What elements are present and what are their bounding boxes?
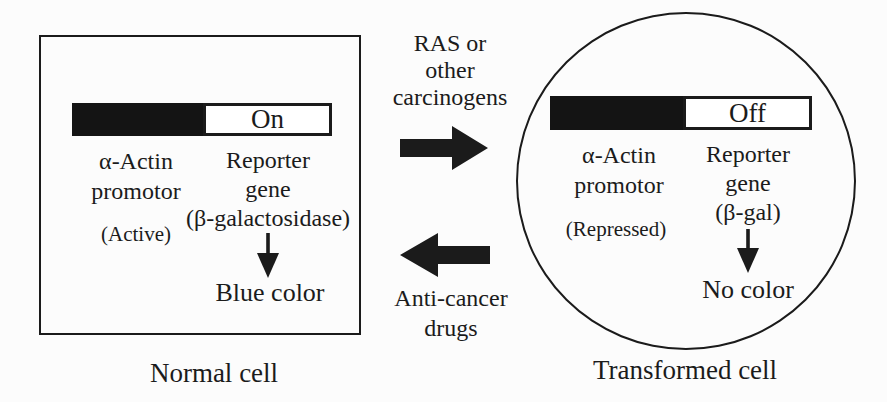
anti-cancer-drugs-label: Anti-cancer drugs xyxy=(394,283,507,343)
reporter-output-arrow-icon xyxy=(733,229,763,274)
anticancer-arrow-icon xyxy=(400,233,490,277)
reporter-gene-label: Reporter gene (β-gal) xyxy=(706,140,790,227)
reporter-gene-label: Reporter gene (β-galactosidase) xyxy=(186,146,350,233)
reporter-bar-segment: On xyxy=(203,103,332,136)
alpha-actin-promotor-label: α-Actin promotor xyxy=(574,140,663,200)
promoter-bar-segment xyxy=(72,103,203,136)
carcinogens-arrow-icon xyxy=(400,126,488,170)
reporter-bar-segment: Off xyxy=(683,96,812,130)
alpha-actin-promotor-label: α-Actin promotor xyxy=(91,146,180,206)
bar-state-label: Off xyxy=(729,98,766,129)
no-color-result-label: No color xyxy=(702,276,794,304)
reporter-output-arrow-icon xyxy=(253,233,283,279)
normal-cell-label: Normal cell xyxy=(150,359,278,388)
transformed-cell-label: Transformed cell xyxy=(593,356,777,385)
repressed-status-label: (Repressed) xyxy=(566,217,666,241)
transformed-cell-gene-bar: Off xyxy=(550,96,812,130)
promoter-bar-segment xyxy=(550,96,683,130)
normal-cell-gene-bar: On xyxy=(72,103,332,136)
blue-color-result-label: Blue color xyxy=(215,279,324,307)
ras-carcinogens-label: RAS or other carcinogens xyxy=(393,30,508,111)
transformed-cell-circle xyxy=(516,12,856,350)
bar-state-label: On xyxy=(251,104,284,135)
active-status-label: (Active) xyxy=(101,222,171,246)
diagram: On α-Actin promotor (Active) Reporter ge… xyxy=(0,0,887,402)
